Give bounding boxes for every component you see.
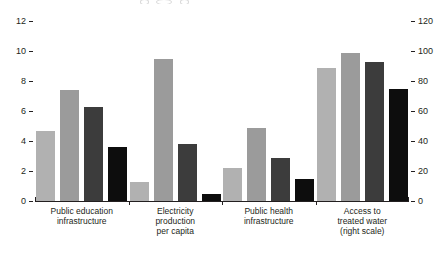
bar-3: [271, 158, 290, 202]
category-label-3: Public healthinfrastructure: [222, 206, 316, 236]
bar-group-4: [316, 21, 410, 201]
tick-mark: [411, 201, 415, 202]
bar-group-3: [222, 21, 316, 201]
tick-label: 0: [21, 196, 26, 206]
bar-2: [60, 90, 79, 201]
tick-label: 6: [21, 106, 26, 116]
tick-mark: [29, 201, 33, 202]
tick-mark: [29, 171, 33, 172]
axis-endcap-right: [408, 197, 409, 201]
bar-1: [223, 168, 242, 201]
x-axis-labels: Public educationinfrastructureElectricit…: [35, 206, 409, 236]
axis-tick: 4: [21, 136, 33, 146]
tick-mark: [29, 141, 33, 142]
bar-4: [295, 179, 314, 202]
tick-mark: [29, 81, 33, 82]
tick-label: 80: [418, 76, 428, 86]
axis-tick: 120: [411, 16, 433, 26]
tick-mark: [411, 141, 415, 142]
axis-tick: 100: [411, 46, 433, 56]
tick-label: 10: [16, 46, 26, 56]
y-axis-left: 121086420: [0, 21, 33, 201]
axis-tick: 6: [21, 106, 33, 116]
category-label-line: per capita: [129, 226, 223, 236]
axis-tick: 40: [411, 136, 428, 146]
bar-1: [317, 68, 336, 202]
tick-mark: [411, 51, 415, 52]
bar-4: [108, 147, 127, 201]
tick-label: 2: [21, 166, 26, 176]
tick-mark: [411, 21, 415, 22]
tick-mark: [411, 81, 415, 82]
y-axis-right: 120100806040200: [411, 21, 439, 201]
tick-label: 12: [16, 16, 26, 26]
axis-tick: 2: [21, 166, 33, 176]
category-label-2: Electricityproductionper capita: [129, 206, 223, 236]
x-axis-group-tick: [129, 201, 130, 205]
tick-label: 8: [21, 76, 26, 86]
bar-3: [84, 107, 103, 202]
bar-4: [202, 194, 221, 202]
bar-4: [389, 89, 408, 202]
category-label-line: (right scale): [316, 226, 410, 236]
tick-label: 100: [418, 46, 433, 56]
bar-group-1: [35, 21, 129, 201]
bar-group-2: [129, 21, 223, 201]
category-label-line: Access to: [316, 206, 410, 216]
plot-area: [35, 21, 409, 202]
category-label-line: treated water: [316, 216, 410, 226]
tick-mark: [29, 51, 33, 52]
category-label-line: infrastructure: [222, 216, 316, 226]
axis-tick: 8: [21, 76, 33, 86]
bar-2: [247, 128, 266, 202]
category-label-line: production: [129, 216, 223, 226]
axis-tick: 10: [16, 46, 33, 56]
x-axis-group-tick: [316, 201, 317, 205]
tick-mark: [411, 171, 415, 172]
axis-tick: 60: [411, 106, 428, 116]
bar-1: [36, 131, 55, 202]
axis-tick: 0: [411, 196, 423, 206]
category-label-line: Public education: [35, 206, 129, 216]
tick-mark: [29, 21, 33, 22]
bar-2: [341, 53, 360, 202]
bar-2: [154, 59, 173, 202]
tick-label: 40: [418, 136, 428, 146]
tick-label: 60: [418, 106, 428, 116]
category-label-line: infrastructure: [35, 216, 129, 226]
tick-label: 4: [21, 136, 26, 146]
tick-label: 20: [418, 166, 428, 176]
category-label-4: Access totreated water(right scale): [316, 206, 410, 236]
category-label-line: Electricity: [129, 206, 223, 216]
tick-mark: [29, 111, 33, 112]
tick-label: 0: [418, 196, 423, 206]
cropped-title-remnant: [138, 0, 198, 4]
axis-tick: 0: [21, 196, 33, 206]
axis-endcap-left: [35, 197, 36, 201]
axis-tick: 12: [16, 16, 33, 26]
bar-3: [365, 62, 384, 202]
category-label-1: Public educationinfrastructure: [35, 206, 129, 236]
bar-3: [178, 144, 197, 201]
tick-label: 120: [418, 16, 433, 26]
category-label-line: Public health: [222, 206, 316, 216]
axis-tick: 80: [411, 76, 428, 86]
bar-1: [130, 182, 149, 202]
bar-chart: 121086420 120100806040200 Public educati…: [0, 0, 439, 255]
x-axis-group-tick: [222, 201, 223, 205]
tick-mark: [411, 111, 415, 112]
axis-tick: 20: [411, 166, 428, 176]
